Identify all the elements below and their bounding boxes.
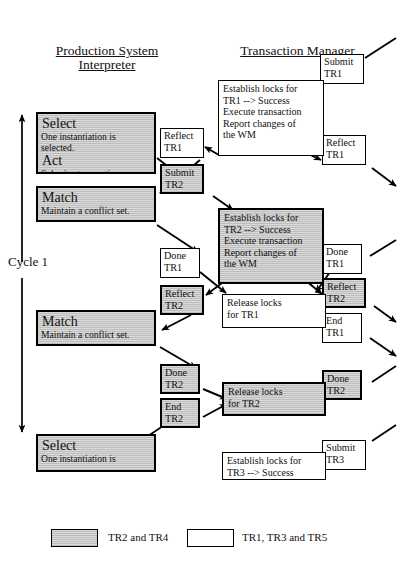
message-line: End (323, 315, 361, 327)
message-line: TR2 (324, 293, 364, 305)
message-line: Done (324, 373, 360, 385)
phase-title: Act (38, 153, 154, 168)
phase-line: Submit a transaction. (38, 168, 154, 174)
tm-box-release-locks-tr1[interactable]: Release locks for TR1 (222, 294, 326, 328)
message-line: Submit (323, 442, 365, 454)
arrow-end-tr1-out (370, 338, 396, 356)
phase-title: Select (38, 438, 154, 453)
legend-swatch-plain (187, 529, 234, 547)
phase-box-match-2[interactable]: Match Maintain a conflict set. (36, 310, 156, 346)
arrow-into-done-tr2-right (372, 366, 396, 382)
message-line: TR1 (161, 142, 203, 154)
phase-box-match-1[interactable]: Match Maintain a conflict set. (36, 186, 156, 222)
message-box-submit-tr1-right[interactable]: Submit TR1 (320, 54, 364, 84)
legend-label-shaded: TR2 and TR4 (108, 531, 168, 543)
message-box-done-tr1-mid[interactable]: Done TR1 (160, 248, 200, 278)
message-line: Reflect (162, 288, 202, 300)
message-box-done-tr1-right[interactable]: Done TR1 (322, 244, 362, 274)
message-box-submit-tr2-mid[interactable]: Submit TR2 (160, 164, 204, 194)
tm-box-release-locks-tr2[interactable]: Release locks for TR2 (222, 382, 326, 416)
message-line: Reflect (324, 281, 364, 293)
tm-line: TR1 --> Success (219, 95, 323, 107)
message-line: Submit (162, 167, 202, 179)
tm-box-establish-locks-tr1[interactable]: Establish locks for TR1 --> Success Exec… (218, 80, 324, 156)
legend-swatch-shaded (51, 529, 98, 547)
tm-box-establish-locks-tr3[interactable]: Establish locks for TR3 --> Success (222, 452, 326, 480)
message-line: TR2 (162, 179, 202, 191)
tm-line: Execute transaction (220, 235, 322, 247)
tm-line: Establish locks for (220, 212, 322, 224)
message-box-done-tr2-mid[interactable]: Done TR2 (160, 364, 200, 394)
phase-title: Match (38, 190, 154, 205)
cycle-label: Cycle 1 (8, 255, 48, 269)
message-box-end-tr1-right[interactable]: End TR1 (322, 313, 362, 343)
tm-line: Report changes of (219, 118, 323, 130)
tm-line: Establish locks for (219, 83, 323, 95)
phase-line: One instantiation is (38, 131, 154, 142)
message-line: TR1 (323, 327, 361, 339)
message-box-reflect-tr2-mid[interactable]: Reflect TR2 (160, 285, 204, 315)
tm-line: the WM (220, 258, 322, 270)
phase-line: selected. (38, 142, 154, 153)
message-line: TR1 (323, 258, 361, 270)
arrow-establish-tr1-to-reflect-tr1 (205, 147, 219, 155)
tm-line: the WM (219, 129, 323, 141)
phase-box-select-1[interactable]: Select One instantiation is selected. Ac… (36, 112, 156, 174)
message-line: Done (162, 367, 198, 379)
message-line: TR2 (162, 300, 202, 312)
diagram-canvas: Production System Interpreter Transactio… (0, 0, 401, 576)
message-box-end-tr2-mid[interactable]: End TR2 (160, 398, 200, 428)
tm-line: Execute transaction (219, 106, 323, 118)
phase-title: Select (38, 116, 154, 131)
tm-line: Release locks (224, 386, 324, 398)
message-box-done-tr2-right[interactable]: Done TR2 (322, 370, 362, 400)
arrow-into-submit-tr3 (372, 425, 396, 441)
arrow-reflect-tr1-right-out (372, 168, 396, 186)
message-line: Done (161, 250, 199, 262)
phase-title: Match (38, 314, 154, 329)
phase-box-select-2[interactable]: Select One instantiation is (36, 434, 156, 472)
phase-line: Maintain a conflict set. (38, 205, 154, 216)
message-line: TR1 (161, 262, 199, 274)
message-line: TR2 (162, 379, 198, 391)
legend-label-plain: TR1, TR3 and TR5 (242, 531, 327, 543)
arrow-reflect-tr2-right-out (374, 306, 396, 322)
tm-line: for TR2 (224, 398, 324, 410)
tm-line: Release locks (223, 297, 325, 309)
phase-line: One instantiation is (38, 453, 154, 464)
tm-line: Report changes of (220, 247, 322, 259)
tm-line: Establish locks for (223, 455, 325, 467)
message-line: TR3 (323, 454, 365, 466)
message-box-reflect-tr1-mid[interactable]: Reflect TR1 (160, 128, 204, 158)
message-line: Reflect (161, 130, 203, 142)
message-line: Done (323, 246, 361, 258)
tm-line: TR2 --> Success (220, 224, 322, 236)
message-box-reflect-tr2-right[interactable]: Reflect TR2 (322, 278, 366, 308)
phase-line: Maintain a conflict set. (38, 329, 154, 340)
message-line: End (162, 401, 198, 413)
message-line: TR1 (323, 149, 365, 161)
tm-line: TR3 --> Success (223, 467, 325, 479)
message-line: Submit (321, 56, 363, 68)
message-box-submit-tr3-right[interactable]: Submit TR3 (322, 440, 366, 470)
column-header-interpreter: Production System Interpreter (22, 44, 192, 72)
message-line: TR2 (162, 413, 198, 425)
arrow-into-done-tr1-right (370, 240, 396, 256)
message-line: Reflect (323, 137, 365, 149)
tm-box-establish-locks-tr2[interactable]: Establish locks for TR2 --> Success Exec… (218, 208, 324, 284)
tm-line: for TR1 (223, 309, 325, 321)
message-line: TR1 (321, 68, 363, 80)
arrow-reflect-tr2-to-match2 (162, 315, 191, 330)
message-box-reflect-tr1-right[interactable]: Reflect TR1 (322, 135, 366, 165)
message-line: TR2 (324, 385, 360, 397)
